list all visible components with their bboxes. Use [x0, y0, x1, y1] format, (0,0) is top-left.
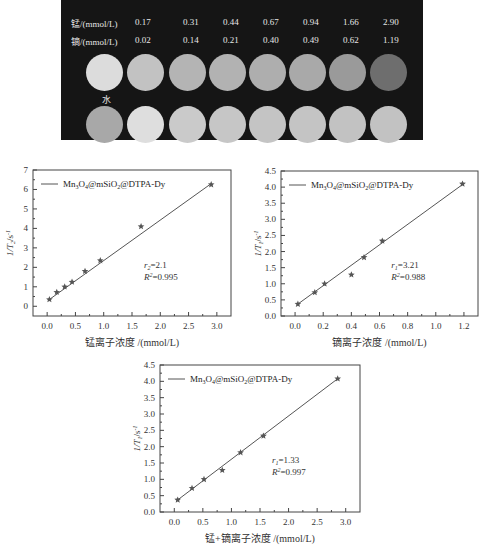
plot-frame — [281, 171, 478, 316]
plot-frame — [33, 170, 231, 316]
y-tick-label: 3.5 — [144, 393, 156, 403]
x-tick-label: 0.0 — [42, 321, 54, 331]
x-tick-label: 0.8 — [402, 321, 414, 331]
y-axis-label: 1/T2/s-1 — [5, 230, 16, 256]
y-tick-label: 3.5 — [265, 198, 277, 208]
y-tick-label: 0.5 — [144, 491, 156, 501]
data-point — [138, 223, 145, 229]
y-tick-label: 4.0 — [144, 376, 156, 386]
data-point — [321, 280, 328, 286]
y-tick-label: 4 — [24, 223, 29, 233]
y-tick-label: 1.0 — [265, 279, 277, 289]
legend-label: Mn3O4@mSiO2@DTPA-Dy — [311, 180, 414, 191]
data-point — [174, 496, 181, 502]
data-point — [208, 181, 215, 187]
x-axis-label: 锰+镝离子浓度 /(mmol/L) — [205, 532, 315, 545]
x-tick-label: 2.0 — [155, 321, 167, 331]
plot-frame — [160, 365, 360, 512]
x-tick-label: 0.5 — [70, 321, 82, 331]
r-value-annotation: r1=1.33 — [272, 455, 300, 466]
y-tick-label: 1.0 — [144, 474, 156, 484]
y-tick-label: 4.0 — [265, 182, 277, 192]
y-tick-label: 3 — [24, 243, 29, 253]
x-axis-label: 镝离子浓度 /(mmol/L) — [332, 336, 426, 349]
x-tick-label: 1.0 — [98, 321, 110, 331]
y-tick-label: 4.5 — [265, 166, 277, 176]
y-tick-label: 2.5 — [265, 230, 277, 240]
r-squared-annotation: R2=0.997 — [271, 467, 306, 477]
x-tick-label: 0.0 — [289, 321, 301, 331]
y-axis-label: 1/T1/s-1 — [253, 230, 264, 256]
y-tick-label: 4.5 — [144, 360, 156, 370]
x-tick-label: 3.0 — [211, 321, 223, 331]
y-tick-label: 1 — [24, 282, 29, 292]
y-tick-label: 3.0 — [144, 409, 156, 419]
data-point — [82, 268, 89, 274]
x-tick-label: 2.5 — [312, 517, 324, 527]
y-tick-label: 2.0 — [265, 247, 277, 257]
x-tick-label: 1.5 — [126, 321, 138, 331]
y-tick-label: 2.5 — [144, 425, 156, 435]
r-value-annotation: r2=2.1 — [144, 260, 167, 271]
y-tick-label: 0.5 — [265, 295, 277, 305]
x-tick-label: 3.0 — [340, 517, 352, 527]
r-squared-annotation: R2=0.988 — [390, 272, 425, 282]
x-tick-label: 1.2 — [458, 321, 469, 331]
x-tick-label: 0.0 — [169, 517, 181, 527]
r-squared-annotation: R2=0.995 — [143, 272, 178, 282]
fit-line — [298, 185, 463, 305]
data-point — [295, 301, 302, 307]
y-tick-label: 6 — [24, 184, 29, 194]
x-tick-label: 0.2 — [318, 321, 329, 331]
x-axis-label: 锰离子浓度 /(mmol/L) — [85, 336, 179, 349]
r-value-annotation: r1=3.21 — [391, 260, 418, 271]
y-axis-label: 1/T1/s-1 — [132, 425, 143, 451]
x-tick-label: 0.4 — [346, 321, 358, 331]
y-tick-label: 3.0 — [265, 214, 277, 224]
x-tick-label: 1.0 — [226, 517, 238, 527]
x-tick-label: 1.5 — [254, 517, 266, 527]
x-tick-label: 2.5 — [183, 321, 195, 331]
x-tick-label: 2.0 — [283, 517, 295, 527]
fit-line — [178, 379, 338, 500]
y-tick-label: 0.0 — [144, 507, 156, 517]
relaxivity-charts: 0.00.51.01.52.02.53.001234567锰离子浓度 /(mmo… — [0, 0, 483, 551]
y-tick-label: 1.5 — [144, 458, 156, 468]
legend-label: Mn3O4@mSiO2@DTPA-Dy — [63, 179, 166, 190]
y-tick-label: 2.0 — [144, 442, 156, 452]
data-point — [348, 271, 355, 277]
data-point — [46, 296, 53, 302]
y-tick-label: 5 — [24, 204, 29, 214]
x-tick-label: 0.6 — [374, 321, 386, 331]
y-tick-label: 7 — [24, 165, 29, 175]
x-tick-label: 0.5 — [197, 517, 209, 527]
legend-label: Mn3O4@mSiO2@DTPA-Dy — [190, 374, 293, 385]
y-tick-label: 0 — [24, 301, 29, 311]
y-tick-label: 0.0 — [265, 311, 277, 321]
y-tick-label: 1.5 — [265, 263, 277, 273]
data-point — [189, 485, 196, 491]
x-tick-label: 1.0 — [430, 321, 442, 331]
y-tick-label: 2 — [24, 262, 29, 272]
